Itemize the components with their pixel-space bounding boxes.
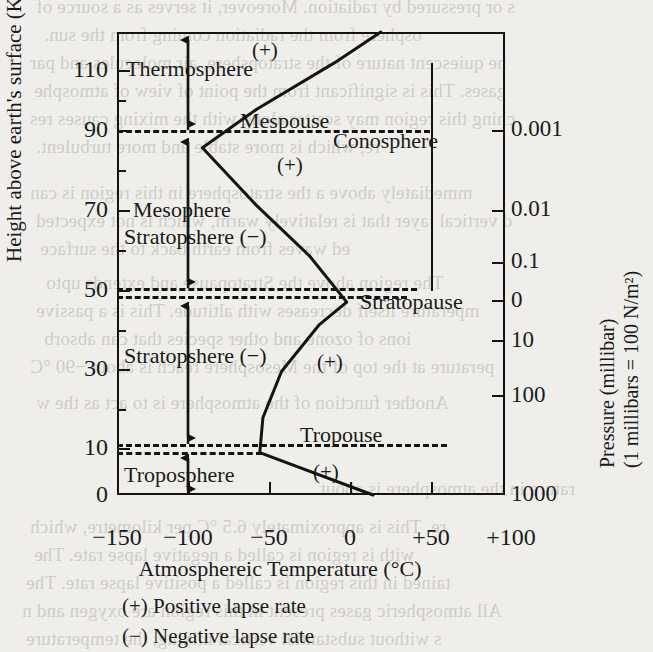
p-tick-label-1000: 1000 — [511, 482, 557, 505]
p-tick-001 — [492, 210, 505, 212]
p-tick-label-100: 100 — [511, 383, 546, 406]
conosphere-extent-rule — [431, 63, 433, 291]
p-tick-label-0: 0 — [511, 288, 523, 311]
boundary-label-mesopause: Mespouse — [240, 110, 329, 132]
y-tick-40 — [117, 330, 126, 332]
pressure-axis-title-line2: (1 millibars = 100 N/m²) — [620, 271, 644, 468]
y-tick-label-10: 10 — [48, 435, 108, 459]
x-tick-label-plus50: +50 — [397, 525, 465, 549]
boundary-label-stratopause: Stratopause — [360, 291, 463, 313]
x-tick-label-minus100: −100 — [153, 525, 223, 549]
p-tick-label-01: 0.1 — [511, 249, 540, 272]
x-tick-0 — [350, 482, 352, 495]
y-tick-label-70: 70 — [48, 197, 108, 221]
atmosphere-temperature-profile-figure: 110 90 70 50 30 10 0 Height above earth'… — [0, 0, 653, 652]
y-tick-10 — [117, 448, 130, 450]
pressure-axis-title-line1: Pressure (millibar) — [596, 319, 618, 468]
lapse-sign-mesosphere: (+) — [277, 155, 303, 176]
x-tick-label-minus50: −50 — [239, 525, 299, 549]
y-tick-80 — [117, 170, 126, 172]
y-tick-label-50: 50 — [48, 277, 108, 301]
y-tick-30 — [117, 369, 130, 371]
y-tick-100 — [117, 100, 126, 102]
y-tick-20 — [117, 409, 126, 411]
y-tick-label-110: 110 — [48, 57, 108, 81]
y-tick-label-90: 90 — [48, 117, 108, 141]
x-tick-plus50 — [431, 482, 433, 495]
p-tick-0 — [492, 300, 505, 302]
lapse-sign-troposphere: (+) — [313, 462, 339, 483]
layer-label-troposphere: Troposphere — [124, 464, 234, 486]
p-tick-label-0001: 0.001 — [511, 117, 563, 140]
lapse-sign-thermosphere: (+) — [252, 40, 278, 61]
boundary-label-tropopause: Tropouse — [300, 424, 382, 446]
x-tick-label-minus150: −150 — [82, 525, 152, 549]
y-tick-70 — [117, 210, 130, 212]
layer-label-stratosphere-upper: Stratopshere (−) — [124, 226, 267, 248]
p-tick-01 — [492, 262, 505, 264]
p-tick-label-001: 0.01 — [511, 197, 551, 220]
p-tick-0001 — [492, 130, 505, 132]
x-tick-label-0: 0 — [330, 525, 370, 549]
tropopause-boundary-line — [117, 444, 447, 447]
region-label-conosphere: Conosphere — [333, 130, 438, 152]
layer-label-thermosphere: Thermosphere — [126, 58, 253, 80]
y-axis-title: Height above earth's surface (Kms) — [2, 0, 27, 262]
pressure-axis-title: Pressure (millibar) (1 millibars = 100 N… — [596, 271, 643, 468]
y-tick-label-0: 0 — [48, 482, 108, 506]
tropopause-boundary-line-2 — [117, 452, 262, 455]
y-tick-label-30: 30 — [48, 356, 108, 380]
x-tick-label-plus100: +100 — [472, 525, 550, 549]
legend-negative-lapse-rate: (−) Negative lapse rate — [122, 624, 314, 649]
lapse-sign-stratosphere: (+) — [317, 352, 343, 373]
y-tick-60 — [117, 250, 126, 252]
legend-positive-lapse-rate: (+) Positive lapse rate — [122, 594, 306, 619]
p-tick-label-10: 10 — [511, 328, 534, 351]
p-tick-100 — [492, 395, 505, 397]
layer-label-mesosphere: Mesophere — [133, 199, 231, 221]
layer-label-stratosphere-lower: Stratopshere (−) — [124, 345, 267, 367]
x-axis-title: Atmosphereic Temperature (°C) — [0, 556, 560, 582]
x-tick-minus50 — [269, 482, 271, 495]
p-tick-10 — [492, 340, 505, 342]
